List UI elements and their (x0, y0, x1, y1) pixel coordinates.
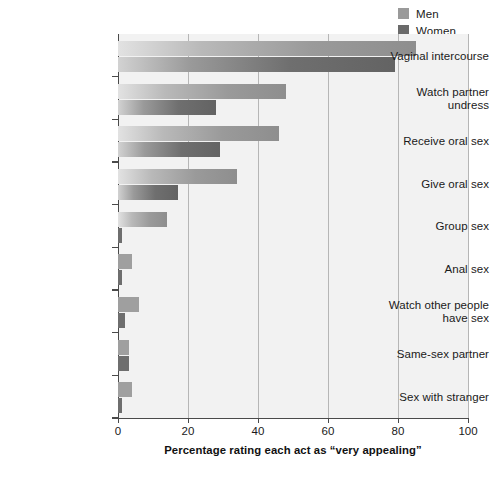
x-axis-line (118, 418, 468, 419)
bar-men (118, 84, 286, 99)
bar-men (118, 169, 237, 184)
bar-women (118, 270, 122, 285)
bar-women (118, 185, 178, 200)
legend-swatch-men (398, 8, 409, 19)
bar-women (118, 57, 395, 72)
x-axis-tick-label: 100 (448, 425, 488, 437)
y-axis-tick (112, 289, 118, 290)
bar-women (118, 398, 122, 413)
bar-men (118, 297, 139, 312)
bar-women (118, 356, 129, 371)
legend-label-men: Men (416, 8, 439, 20)
category-label: Watch other peoplehave sex (381, 299, 489, 325)
category-label: Group sex (381, 220, 489, 233)
y-axis-tick (112, 119, 118, 120)
category-label: Sex with stranger (381, 391, 489, 404)
x-axis-tick-label: 80 (378, 425, 418, 437)
bar-men (118, 382, 132, 397)
category-label: Same-sex partner (381, 348, 489, 361)
legend-item-men: Men (398, 6, 494, 21)
bar-men (118, 212, 167, 227)
bar-men (118, 340, 129, 355)
y-axis-tick (112, 161, 118, 162)
x-axis-tick (258, 418, 259, 423)
category-label: Anal sex (381, 263, 489, 276)
y-axis-tick (112, 332, 118, 333)
bar-men (118, 41, 416, 56)
x-axis-tick (118, 418, 119, 423)
bar-chart: Men Women Vaginal intercourseWatch partn… (0, 0, 499, 478)
x-axis-tick (398, 418, 399, 423)
category-label: Vaginal intercourse (381, 50, 489, 63)
x-axis-tick-label: 40 (238, 425, 278, 437)
bar-men (118, 126, 279, 141)
x-axis-title: Percentage rating each act as “very appe… (118, 444, 468, 456)
y-axis-tick (112, 204, 118, 205)
x-axis-tick (188, 418, 189, 423)
y-axis-tick (112, 375, 118, 376)
x-axis-tick-label: 0 (98, 425, 138, 437)
category-label: Receive oral sex (381, 135, 489, 148)
bar-women (118, 100, 216, 115)
x-axis-tick-label: 60 (308, 425, 348, 437)
bar-women (118, 313, 125, 328)
category-label: Give oral sex (381, 178, 489, 191)
bar-women (118, 142, 220, 157)
x-axis-tick (328, 418, 329, 423)
category-label: Watch partnerundress (381, 86, 489, 112)
x-axis-tick (468, 418, 469, 423)
y-axis-tick (112, 247, 118, 248)
bar-men (118, 254, 132, 269)
x-axis-tick-label: 20 (168, 425, 208, 437)
bar-women (118, 228, 122, 243)
y-axis-tick (112, 76, 118, 77)
